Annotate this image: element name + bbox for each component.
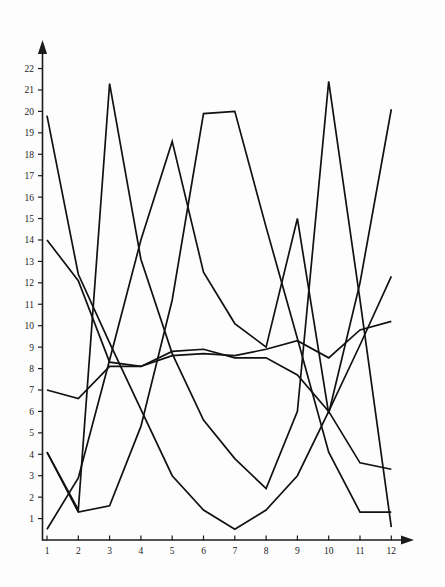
series-line-series-2 <box>47 240 391 366</box>
y-tick-label: 14 <box>25 235 35 245</box>
series-line-series-5 <box>47 81 391 527</box>
x-tick-label: 3 <box>107 546 112 556</box>
x-tick-label: 8 <box>264 546 269 556</box>
y-tick-label: 11 <box>25 300 34 310</box>
y-tick-label: 1 <box>29 514 34 524</box>
series-line-series-4 <box>47 111 391 512</box>
x-tick-label: 11 <box>355 546 364 556</box>
y-axis-arrow-icon <box>38 40 47 54</box>
y-tick-label: 6 <box>29 407 34 417</box>
line-chart: 12345678910111213141516171819202122 1234… <box>0 0 445 587</box>
x-axis-arrow-icon <box>401 535 414 544</box>
chart-canvas: 12345678910111213141516171819202122 1234… <box>0 0 445 587</box>
y-tick-label: 13 <box>25 257 35 267</box>
series-line-series-1 <box>47 116 391 530</box>
y-tick-label: 19 <box>25 128 35 138</box>
x-tick-label: 1 <box>45 546 50 556</box>
x-tick-label: 10 <box>324 546 334 556</box>
y-tick-label: 2 <box>29 493 34 503</box>
y-tick-label: 8 <box>29 364 34 374</box>
x-tick-label: 6 <box>201 546 206 556</box>
y-tick-label: 12 <box>25 278 35 288</box>
y-tick-label: 4 <box>29 450 34 460</box>
series-layer <box>47 81 391 529</box>
y-tick-label: 17 <box>25 171 35 181</box>
x-tick-label: 4 <box>139 546 144 556</box>
y-tick-label: 22 <box>25 64 35 74</box>
y-axis: 12345678910111213141516171819202122 <box>25 40 48 541</box>
y-tick-label: 7 <box>29 385 34 395</box>
x-tick-label: 9 <box>295 546 300 556</box>
x-tick-label: 12 <box>387 546 397 556</box>
y-tick-label: 20 <box>25 107 35 117</box>
y-tick-label: 5 <box>29 428 34 438</box>
y-tick-label: 9 <box>29 343 34 353</box>
x-axis: 123456789101112 <box>42 535 414 556</box>
y-tick-label: 21 <box>25 85 35 95</box>
y-tick-label: 18 <box>25 150 35 160</box>
x-tick-label: 7 <box>232 546 237 556</box>
y-tick-label: 16 <box>25 193 35 203</box>
y-tick-label: 10 <box>25 321 35 331</box>
x-tick-label: 5 <box>170 546 175 556</box>
x-tick-label: 2 <box>76 546 81 556</box>
y-tick-label: 3 <box>29 471 34 481</box>
y-tick-label: 15 <box>25 214 35 224</box>
